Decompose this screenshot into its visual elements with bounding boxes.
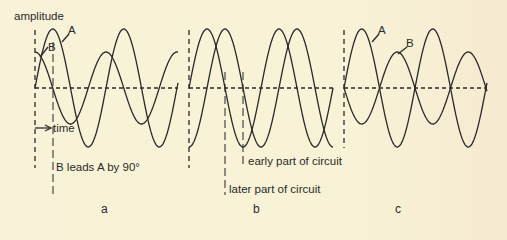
early-annotation: early part of circuit — [248, 156, 342, 168]
wave-label-A-a: A — [68, 25, 76, 37]
phase-annotation: B leads A by 90° — [56, 162, 140, 174]
panel-label-b: b — [253, 203, 260, 215]
x-axis-label: time — [53, 123, 75, 135]
later-annotation: later part of circuit — [229, 184, 320, 196]
y-axis-label: amplitude — [14, 11, 64, 23]
panel-label-c: c — [395, 203, 401, 215]
wave-label-A-c: A — [378, 25, 386, 37]
wave-label-B-c: B — [406, 38, 414, 50]
wave-label-B-a: B — [48, 42, 56, 54]
panel-c — [344, 29, 487, 148]
leader-B-a — [40, 47, 48, 57]
panel-b — [189, 29, 333, 195]
panel-label-a: a — [101, 203, 108, 215]
phase-diagram — [0, 0, 507, 231]
